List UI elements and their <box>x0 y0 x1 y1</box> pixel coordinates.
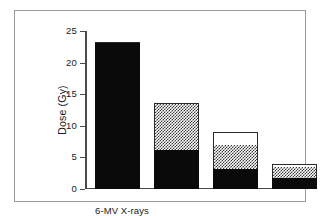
bar-segment-checkered <box>213 145 258 168</box>
bar-segment-solid-black <box>213 169 258 189</box>
bar-6-mv-x-rays[interactable]: 6-MV X-rays <box>95 42 140 189</box>
x-tick-label: 6-MV X-rays <box>95 206 140 214</box>
bar-segment-solid-black <box>95 42 140 189</box>
y-tick-label: 5 <box>72 153 77 163</box>
y-tick-mark <box>80 189 85 190</box>
figure-border: Dose (Gy) 25 20 15 10 5 <box>14 10 306 202</box>
bar-segment-open-white <box>213 132 258 145</box>
bar-bsh[interactable]: BSH <box>272 164 317 189</box>
bar-segment-solid-black <box>154 150 199 189</box>
bar-series-container: 6-MV X-rays Beam only BPA <box>85 31 307 189</box>
plot-area: Dose (Gy) 25 20 15 10 5 <box>85 31 307 189</box>
bar-beam-only[interactable]: Beam only <box>154 103 199 189</box>
bar-bpa[interactable]: BPA <box>213 132 258 189</box>
y-tick-label: 10 <box>66 121 77 131</box>
bar-segment-checkered <box>272 167 317 178</box>
y-tick-label: 0 <box>72 184 77 194</box>
y-tick-label: 15 <box>66 89 77 99</box>
y-tick-label: 25 <box>66 26 77 36</box>
bar-segment-checkered <box>154 103 199 150</box>
bar-segment-solid-black <box>272 178 317 189</box>
figure-panel: Dose (Gy) 25 20 15 10 5 <box>0 0 320 214</box>
y-tick-label: 20 <box>66 58 77 68</box>
